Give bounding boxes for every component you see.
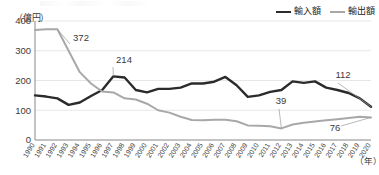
x-axis-tick-label: 2010 — [246, 142, 260, 159]
legend-item-export: 輸出額 — [330, 7, 375, 16]
chart-series-group — [35, 29, 371, 128]
annotation-value-label: 214 — [116, 54, 132, 65]
annotation-leader-line — [338, 83, 371, 107]
annotation-value-label: 39 — [276, 95, 287, 106]
y-axis-tick-label: 300 — [15, 45, 31, 56]
legend-label-export: 輸出額 — [348, 7, 375, 16]
x-axis-unit-label: （年） — [355, 154, 379, 166]
chart-container: （億円） （年） 輸入額 輸出額 0100200300400 372214391… — [0, 0, 379, 175]
y-axis-tick-labels: 0100200300400 — [15, 15, 31, 145]
annotation-leader-line — [279, 109, 281, 128]
chart-plot-area: 0100200300400 3722143911276 199019911992… — [0, 0, 379, 175]
legend-swatch-import-icon — [276, 11, 291, 13]
legend-item-import: 輸入額 — [276, 7, 321, 16]
annotation-value-label: 76 — [330, 122, 341, 133]
legend-swatch-export-icon — [330, 11, 345, 13]
cropped-caption-artifact — [40, 1, 150, 6]
x-axis-tick-labels: 1990199119921993199419951996199719981999… — [22, 142, 372, 159]
y-axis-tick-label: 100 — [15, 105, 31, 116]
annotation-value-label: 112 — [335, 69, 350, 80]
y-axis-tick-label: 200 — [15, 75, 31, 86]
y-axis-unit-label: （億円） — [14, 11, 49, 24]
chart-legend: 輸入額 輸出額 — [276, 7, 375, 16]
legend-label-import: 輸入額 — [294, 7, 321, 16]
series-line-import — [35, 76, 371, 106]
series-line-export — [35, 29, 371, 128]
annotation-value-label: 372 — [73, 32, 89, 43]
